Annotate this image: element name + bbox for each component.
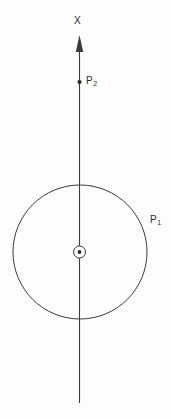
- point-label-p2: P2: [86, 76, 97, 86]
- circle-label-p1-subscript: 1: [157, 219, 161, 226]
- figure-canvas: X P2 P1: [0, 0, 171, 419]
- circle-label-p1: P1: [150, 215, 161, 225]
- figure-drawing: [0, 0, 171, 419]
- point-p2-marker: [77, 80, 81, 84]
- axis-arrowhead-icon: [76, 35, 83, 52]
- out-of-page-dot-icon: [78, 250, 82, 254]
- circle-label-p1-base: P: [150, 214, 157, 225]
- point-label-p2-base: P: [86, 75, 93, 86]
- point-label-p2-subscript: 2: [93, 80, 97, 87]
- axis-label-x: X: [74, 16, 81, 26]
